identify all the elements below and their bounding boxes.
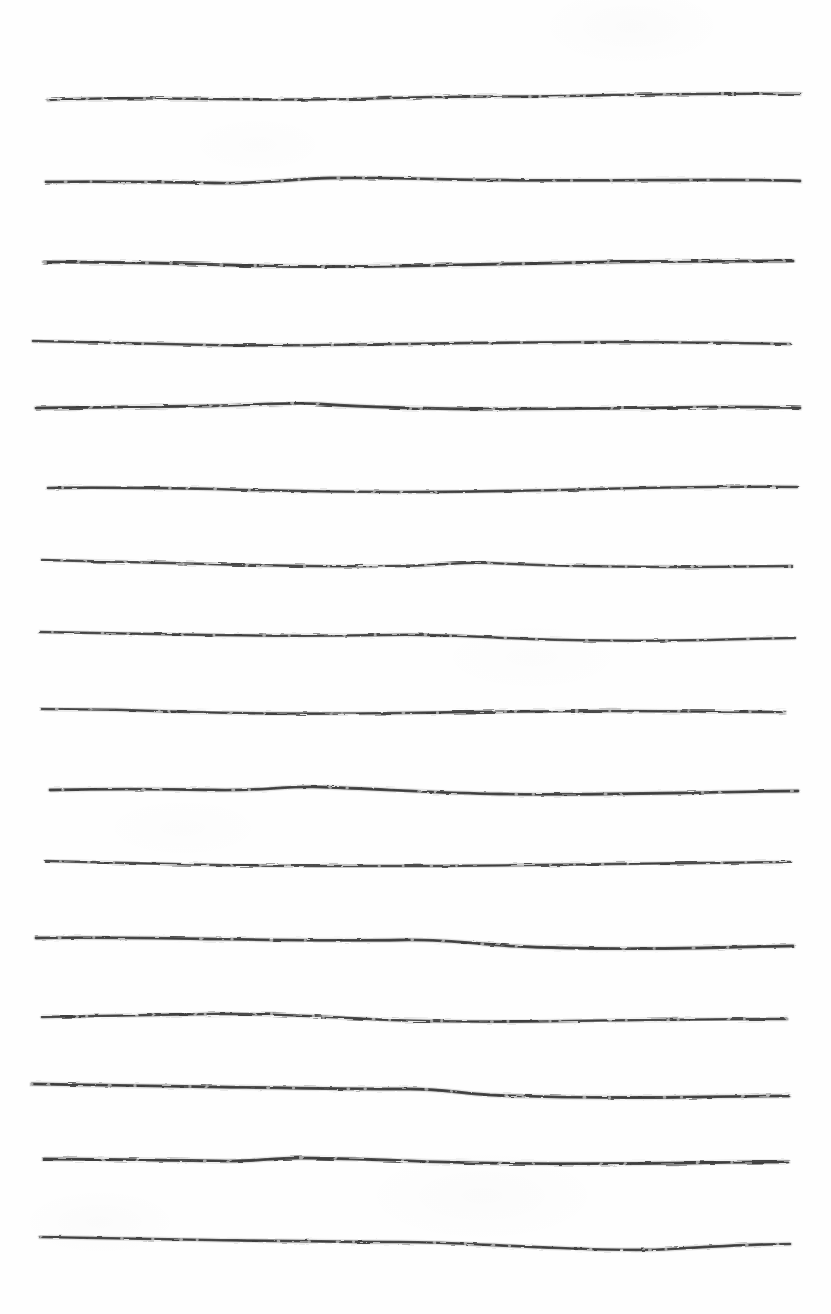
ink-stroke-layer (0, 0, 831, 1314)
scanned-page (0, 0, 831, 1314)
ink-strokes-group (32, 94, 800, 1250)
ink-stroke (36, 938, 793, 949)
